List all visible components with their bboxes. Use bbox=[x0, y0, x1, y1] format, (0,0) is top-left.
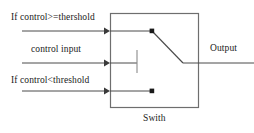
condition-low-label: If control<threshold bbox=[11, 76, 89, 86]
condition-high-arrow-icon bbox=[104, 28, 110, 35]
switch-block-diagram: If control>=thershold control input If c… bbox=[0, 0, 254, 133]
switch-box bbox=[111, 14, 199, 108]
switch-blade bbox=[152, 31, 183, 63]
condition-low-arrow-icon bbox=[104, 88, 110, 95]
control-input-arrow-icon bbox=[104, 60, 110, 67]
output-label: Output bbox=[210, 44, 237, 54]
condition-high-label: If control>=thershold bbox=[11, 13, 95, 23]
lower-terminal-dot bbox=[150, 89, 155, 94]
figure-caption: Swith bbox=[143, 114, 166, 124]
upper-terminal-dot bbox=[150, 29, 155, 34]
control-input-label: control input bbox=[31, 45, 81, 55]
